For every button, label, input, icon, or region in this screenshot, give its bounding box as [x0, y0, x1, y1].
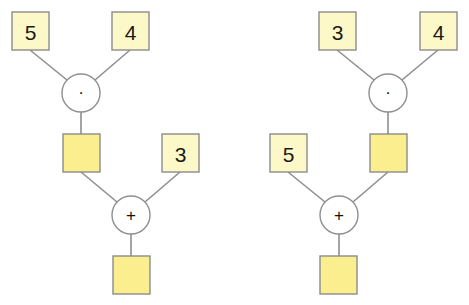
edge — [402, 50, 438, 80]
input-box-right-b: 4 — [420, 12, 457, 50]
calculation-trees: 5 4 · 3 + — [0, 0, 469, 305]
input-box-right-c: 5 — [270, 134, 307, 172]
edge — [145, 172, 180, 202]
edge — [353, 172, 388, 202]
answer-box-right-intermediate[interactable] — [370, 134, 407, 172]
input-value: 4 — [433, 21, 445, 44]
answer-box-right-final[interactable] — [320, 256, 357, 294]
edge — [337, 50, 374, 80]
input-box-left-b: 4 — [112, 12, 149, 50]
input-value: 4 — [125, 21, 137, 44]
answer-box-left-intermediate[interactable] — [63, 134, 100, 172]
input-value: 5 — [283, 143, 295, 166]
input-value: 5 — [25, 21, 37, 44]
input-value: 3 — [332, 21, 344, 44]
plus-icon: + — [334, 206, 344, 225]
tree-right: 3 4 · 5 + — [270, 12, 457, 294]
operator-multiply-left: · — [62, 74, 100, 112]
multiply-icon: · — [78, 83, 84, 102]
edge — [95, 50, 130, 80]
input-box-left-a: 5 — [12, 12, 49, 50]
operator-multiply-right: · — [369, 74, 407, 112]
plus-icon: + — [126, 206, 136, 225]
multiply-icon: · — [385, 83, 391, 102]
input-box-right-a: 3 — [319, 12, 356, 50]
edge — [30, 50, 67, 80]
input-box-left-c: 3 — [162, 134, 199, 172]
input-value: 3 — [175, 143, 187, 166]
operator-plus-left: + — [112, 196, 150, 234]
edge — [288, 172, 325, 202]
answer-box-left-final[interactable] — [113, 256, 150, 294]
operator-plus-right: + — [320, 196, 358, 234]
tree-left: 5 4 · 3 + — [12, 12, 199, 294]
edge — [81, 172, 117, 202]
